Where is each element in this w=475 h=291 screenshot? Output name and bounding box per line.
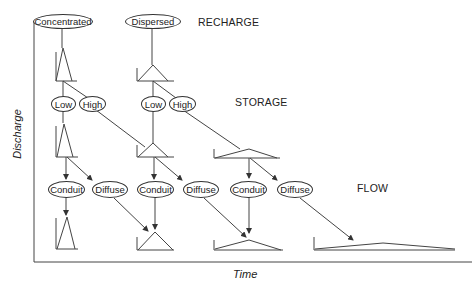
hydrograph-storage-low-concentrated [56,124,78,157]
stage-label-recharge: RECHARGE [198,16,259,28]
x-axis-label: Time [233,268,257,280]
stage-label-flow: FLOW [357,182,388,194]
hydrograph-flow-storage-high [214,240,283,250]
diagram-canvas [0,0,475,291]
node-diffuse-1: Diffuse [92,181,128,198]
hydrograph-flow-combined [137,232,174,250]
node-conduit-3: Conduit [230,181,267,198]
node-low-1: Low [51,96,76,112]
hydrograph-recharge-dispersed [137,65,174,81]
node-concentrated: Concentrated [33,14,93,29]
node-diffuse-2: Diffuse [183,181,219,198]
node-conduit-1: Conduit [48,181,85,198]
hydrograph-storage-high-dispersed [214,149,280,158]
hydrograph-flow-conduit-1 [56,217,78,249]
node-conduit-2: Conduit [137,181,174,198]
stage-label-storage: STORAGE [235,96,288,108]
y-axis-label: Discharge [11,109,23,159]
node-high-2: High [169,96,196,112]
node-diffuse-3: Diffuse [277,181,313,198]
node-dispersed: Dispersed [125,14,181,29]
hydrograph-flow-diffuse-slow [314,237,455,250]
node-low-2: Low [141,96,166,112]
hydrograph-recharge-concentrated [56,48,77,81]
node-high-1: High [79,96,106,112]
